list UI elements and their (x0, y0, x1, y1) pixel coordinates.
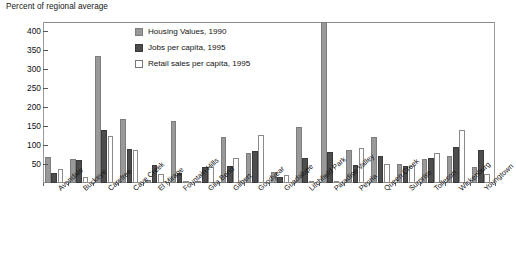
bar (459, 130, 465, 183)
legend-swatch-housing-values (135, 28, 143, 36)
legend-label: Retail sales per capita, 1995 (148, 60, 250, 68)
y-axis-tick (43, 31, 48, 32)
y-axis-tick-label: 300 (3, 65, 41, 73)
y-axis-tick-label: 400 (3, 27, 41, 35)
legend-item: Retail sales per capita, 1995 (135, 57, 310, 71)
y-axis-tick (43, 69, 48, 70)
bar-group (420, 22, 445, 183)
bar-group (470, 22, 495, 183)
y-axis-tick (43, 145, 48, 146)
y-axis-tick-label: 150 (3, 122, 41, 130)
x-axis-label-group: AvondaleBuckeyeCarefreeCave CreekEl Mira… (43, 186, 503, 258)
bar (321, 22, 327, 183)
legend-swatch-retail-sales (135, 60, 143, 68)
bar-group (445, 22, 470, 183)
y-axis-tick (43, 88, 48, 89)
bar-group (43, 22, 68, 183)
chart-legend: Housing Values, 1990 Jobs per capita, 19… (135, 25, 310, 73)
y-axis-tick-label: 250 (3, 84, 41, 92)
y-axis-label-group: 50100150200250300350400 (0, 0, 41, 260)
bar (378, 156, 384, 183)
y-axis-tick-label: 100 (3, 141, 41, 149)
bar (258, 135, 264, 183)
legend-item: Jobs per capita, 1995 (135, 41, 310, 55)
bar (95, 56, 101, 183)
y-axis-tick (43, 50, 48, 51)
y-axis-tick (43, 126, 48, 127)
y-axis-tick-label: 50 (3, 160, 41, 168)
bar (108, 136, 114, 183)
y-axis-tick-label: 350 (3, 46, 41, 54)
bar-group (93, 22, 118, 183)
bar (51, 173, 57, 183)
y-axis-tick-label: 200 (3, 103, 41, 111)
bar-group (68, 22, 93, 183)
bar (133, 150, 139, 183)
bar (45, 157, 51, 183)
y-axis-tick (43, 164, 48, 165)
y-axis-tick (43, 107, 48, 108)
legend-label: Jobs per capita, 1995 (148, 44, 225, 52)
legend-swatch-jobs-per-capita (135, 44, 143, 52)
legend-label: Housing Values, 1990 (148, 28, 227, 36)
legend-item: Housing Values, 1990 (135, 25, 310, 39)
